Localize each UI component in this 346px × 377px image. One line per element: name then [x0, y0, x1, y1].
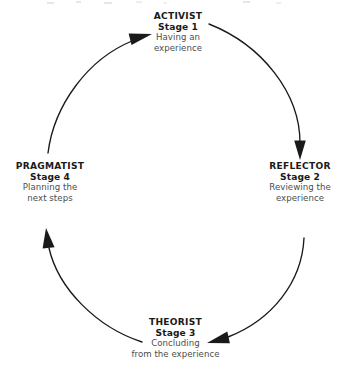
- stage-node-pragmatist: PRAGMATIST Stage 4 Planning the next ste…: [0, 161, 100, 203]
- learning-cycle-diagram: ACTIVIST Stage 1 Having an experience RE…: [0, 0, 346, 377]
- stage-desc-pragmatist-line1: Planning the: [0, 182, 100, 192]
- stage-number-reflector: Stage 2: [250, 172, 346, 183]
- stage-node-activist: ACTIVIST Stage 1 Having an experience: [128, 11, 228, 53]
- stage-node-reflector: REFLECTOR Stage 2 Reviewing the experien…: [250, 161, 346, 203]
- stage-role-pragmatist: PRAGMATIST: [0, 161, 100, 172]
- stage-desc-reflector-line2: experience: [250, 193, 346, 203]
- stage-node-theorist: THEORIST Stage 3 Concluding from the exp…: [113, 317, 238, 359]
- stage-number-theorist: Stage 3: [113, 328, 238, 339]
- stage-desc-theorist-line2: from the experience: [113, 349, 238, 359]
- stage-desc-reflector-line1: Reviewing the: [250, 182, 346, 192]
- stage-role-activist: ACTIVIST: [128, 11, 228, 22]
- stage-desc-theorist-line1: Concluding: [113, 338, 238, 348]
- stage-number-activist: Stage 1: [128, 22, 228, 33]
- stage-role-reflector: REFLECTOR: [250, 161, 346, 172]
- stage-desc-activist-line2: experience: [128, 43, 228, 53]
- stage-desc-pragmatist-line2: next steps: [0, 193, 100, 203]
- stage-number-pragmatist: Stage 4: [0, 172, 100, 183]
- stage-desc-activist-line1: Having an: [128, 32, 228, 42]
- stage-role-theorist: THEORIST: [113, 317, 238, 328]
